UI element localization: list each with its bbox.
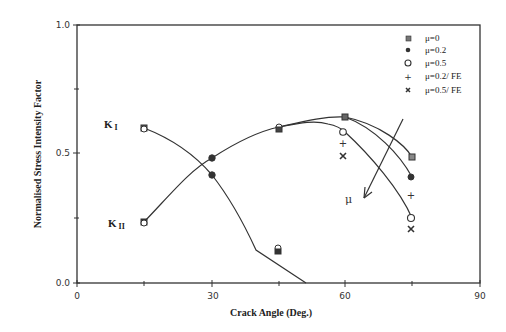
x-tick-label: 60 [339, 291, 351, 301]
y-tick-label: 0.5 [56, 148, 70, 158]
ki-label: K I [104, 118, 118, 132]
y-axis: 0.0 0.5 1.0 Normalised Stress Intensity … [32, 20, 80, 288]
mu-annotation: μ [345, 193, 352, 206]
x-tick-label: 0 [74, 291, 80, 301]
legend-label: μ=0.2 [425, 45, 446, 55]
legend-label: μ=0.5 [425, 58, 447, 68]
legend-label: μ=0 [425, 33, 440, 43]
square-marker-icon [406, 36, 411, 41]
plot-frame [77, 25, 480, 283]
svg-text:+: + [339, 138, 347, 149]
kii-label: K II [108, 217, 125, 231]
data-markers: + + [141, 114, 415, 254]
x-axis-label: Crack Angle (Deg.) [230, 307, 312, 319]
y-tick-label: 1.0 [56, 20, 71, 30]
legend-label: μ=0.5/ FE [425, 85, 462, 95]
y-tick-label: 0.0 [56, 278, 71, 288]
kii-curve-mu0 [144, 117, 412, 222]
legend: μ=0 μ=0.2 μ=0.5 + μ=0.2/ FE μ=0.5/ FE [404, 33, 462, 95]
legend-label: μ=0.2/ FE [425, 71, 462, 81]
plus-marker-icon: + [404, 72, 412, 82]
y-axis-label: Normalised Stress Intensity Factor [32, 79, 43, 228]
x-tick-label: 90 [474, 291, 486, 301]
bowtie-marker-icon [406, 88, 410, 92]
x-tick-label: 30 [207, 291, 219, 301]
open-circle-marker-icon [405, 60, 411, 66]
ki-curve [144, 128, 306, 283]
chart: 0.0 0.5 1.0 Normalised Stress Intensity … [0, 0, 506, 332]
x-axis: 0 30 60 90 Crack Angle (Deg.) [74, 280, 486, 319]
filled-circle-marker-icon [406, 48, 411, 53]
svg-text:+: + [407, 190, 415, 201]
